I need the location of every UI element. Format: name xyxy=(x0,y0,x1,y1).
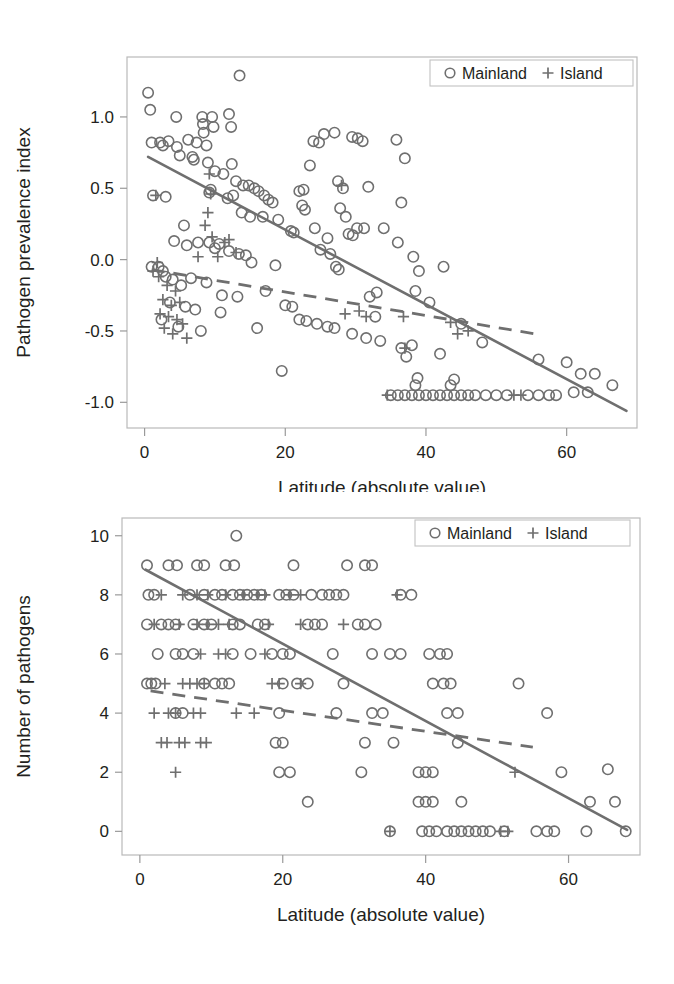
data-point-circle xyxy=(367,649,377,659)
data-point-circle xyxy=(143,87,153,97)
data-point-circle xyxy=(367,560,377,570)
data-point-plus xyxy=(167,328,178,339)
data-point-circle xyxy=(312,319,322,329)
data-point-circle xyxy=(186,273,196,283)
data-point-circle xyxy=(193,237,203,247)
data-point-plus xyxy=(202,207,213,218)
data-point-circle xyxy=(581,826,591,836)
data-point-plus xyxy=(170,767,181,778)
data-point-circle xyxy=(224,109,234,119)
data-point-circle xyxy=(533,390,543,400)
data-point-circle xyxy=(412,373,422,383)
legend-mainland-label: Mainland xyxy=(462,65,527,82)
data-point-circle xyxy=(410,286,420,296)
data-point-circle xyxy=(561,357,571,367)
prevalence-scatter-plot: 1.00.50.0-0.5-1.00204060Latitude (absolu… xyxy=(0,0,674,492)
data-point-plus xyxy=(502,826,513,837)
data-point-circle xyxy=(214,239,224,249)
data-point-circle xyxy=(414,266,424,276)
data-point-circle xyxy=(178,649,188,659)
data-point-circle xyxy=(549,826,559,836)
data-point-plus xyxy=(174,297,185,308)
data-point-plus xyxy=(199,220,210,231)
data-point-circle xyxy=(396,197,406,207)
data-point-plus xyxy=(179,737,190,748)
data-point-circle xyxy=(347,329,357,339)
data-point-plus xyxy=(259,589,270,600)
x-axis-title: Latitude (absolute value) xyxy=(278,477,486,492)
regression-line-island xyxy=(151,691,533,747)
data-point-circle xyxy=(329,127,339,137)
data-point-plus xyxy=(170,285,181,296)
series-mainland xyxy=(142,531,631,837)
data-point-circle xyxy=(610,797,620,807)
legend-island-label: Island xyxy=(560,65,603,82)
data-point-plus xyxy=(231,708,242,719)
legend: MainlandIsland xyxy=(415,520,630,546)
data-point-circle xyxy=(400,153,410,163)
series-island xyxy=(149,589,521,837)
data-point-plus xyxy=(150,190,161,201)
data-point-circle xyxy=(207,112,217,122)
data-point-plus xyxy=(174,619,185,630)
data-point-circle xyxy=(331,262,341,272)
data-point-circle xyxy=(160,192,170,202)
data-point-circle xyxy=(217,290,227,300)
data-point-circle xyxy=(208,122,218,132)
data-point-plus xyxy=(157,294,168,305)
data-point-circle xyxy=(190,304,200,314)
data-point-plus xyxy=(202,619,213,630)
data-point-plus xyxy=(181,333,192,344)
data-point-circle xyxy=(179,220,189,230)
data-point-circle xyxy=(360,619,370,629)
data-point-circle xyxy=(241,250,251,260)
data-point-circle xyxy=(224,678,234,688)
data-point-plus xyxy=(452,328,463,339)
data-point-circle xyxy=(370,619,380,629)
x-tick-label: 40 xyxy=(417,443,436,462)
regression-line-mainland xyxy=(148,157,626,411)
y-tick-label: 10 xyxy=(90,527,109,546)
x-tick-label: 20 xyxy=(276,443,295,462)
data-point-circle xyxy=(424,649,434,659)
data-point-plus xyxy=(195,708,206,719)
data-point-circle xyxy=(378,708,388,718)
chart-panel-prevalence: 1.00.50.0-0.5-1.00204060Latitude (absolu… xyxy=(0,0,674,492)
data-point-circle xyxy=(361,333,371,343)
x-tick-label: 0 xyxy=(140,443,149,462)
data-point-circle xyxy=(215,307,225,317)
data-point-circle xyxy=(246,257,256,267)
data-point-circle xyxy=(428,678,438,688)
data-point-circle xyxy=(363,182,373,192)
data-point-circle xyxy=(356,767,366,777)
y-tick-label: -0.5 xyxy=(85,322,114,341)
data-point-circle xyxy=(334,264,344,274)
data-point-circle xyxy=(287,302,297,312)
y-tick-label: 0.5 xyxy=(90,179,114,198)
data-point-circle xyxy=(201,140,211,150)
data-point-plus xyxy=(163,311,174,322)
data-point-circle xyxy=(274,767,284,777)
data-point-plus xyxy=(361,311,372,322)
data-point-circle xyxy=(391,135,401,145)
data-point-plus xyxy=(161,737,172,748)
data-point-circle xyxy=(234,70,244,80)
data-point-circle xyxy=(171,112,181,122)
data-point-circle xyxy=(328,649,338,659)
data-point-circle xyxy=(481,390,491,400)
data-point-circle xyxy=(393,237,403,247)
data-point-circle xyxy=(338,590,348,600)
data-point-circle xyxy=(196,326,206,336)
data-point-circle xyxy=(277,366,287,376)
data-point-circle xyxy=(385,649,395,659)
data-point-circle xyxy=(585,797,595,807)
data-point-circle xyxy=(227,159,237,169)
y-tick-label: 4 xyxy=(100,704,109,723)
data-point-circle xyxy=(603,764,613,774)
data-point-circle xyxy=(285,767,295,777)
data-point-circle xyxy=(142,560,152,570)
data-point-circle xyxy=(576,369,586,379)
data-point-plus xyxy=(149,708,160,719)
data-point-circle xyxy=(485,826,495,836)
data-point-circle xyxy=(531,826,541,836)
